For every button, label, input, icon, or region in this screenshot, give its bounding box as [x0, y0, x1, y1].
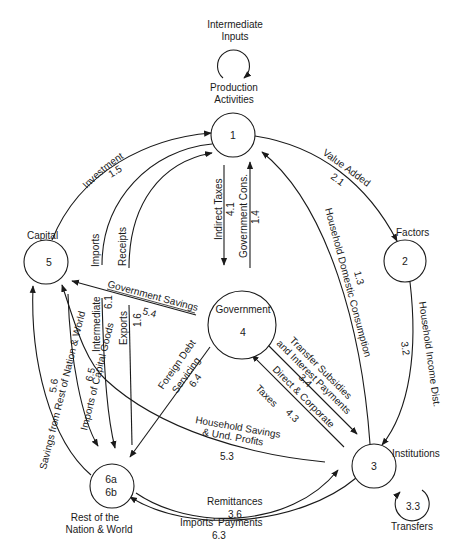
flow-foreign-debt: Foreign Debt Servicing 6.4	[130, 337, 210, 457]
node-government-number: 4	[240, 326, 246, 338]
flow-exports-code: 1.6	[132, 313, 143, 327]
node-row-label-2: Nation & World	[65, 524, 132, 535]
node-production-label-1: Production	[210, 82, 258, 93]
sam-flow-diagram: Investment 1.5 Value Added 2.1 Household…	[0, 0, 454, 557]
node-production-activities: Production Activities 1	[210, 82, 258, 157]
flow-imports-payments-code: 6.3	[212, 530, 226, 541]
flow-household-savings-code: 5.3	[220, 451, 234, 462]
flow-government-consumption-label: Government Cons.	[238, 174, 249, 258]
flow-savings-row-code: 5.6	[47, 378, 60, 394]
flow-value-added-code: 2.1	[329, 171, 347, 188]
flow-value-added: Value Added 2.1	[255, 136, 397, 241]
flow-savings-row-label: Savings from Rest of Nation & World	[37, 310, 87, 470]
flow-imports-payments-label: Imports' Payments	[180, 517, 263, 528]
flow-household-income-code: 3.2	[399, 341, 412, 357]
node-government: Government 4	[208, 291, 276, 359]
node-row-number-2: 6b	[105, 486, 117, 498]
flow-remittances-label: Remittances	[207, 496, 263, 507]
loop-intermediate-inputs: Intermediate Inputs	[207, 19, 263, 78]
node-production-number: 1	[230, 129, 236, 141]
node-capital: Capital 5	[24, 230, 68, 284]
flow-imports-payments: Imports' Payments 6.3	[130, 478, 356, 541]
flow-indirect-taxes-label: Indirect Taxes	[213, 178, 224, 240]
node-factors-number: 2	[402, 255, 408, 267]
node-row-label-1: Rest of the	[71, 512, 120, 523]
flow-receipts-label: Receipts	[117, 227, 128, 266]
flow-receipts: Receipts	[117, 153, 212, 268]
flow-government-consumption: Government Cons. 1.4	[238, 162, 261, 268]
loop-transfers: 3.3 Transfers	[391, 490, 433, 532]
flow-government-consumption-code: 1.4	[250, 210, 261, 224]
node-production-label-2: Activities	[214, 94, 253, 105]
node-capital-number: 5	[46, 256, 52, 268]
flow-value-added-label: Value Added	[321, 147, 373, 189]
flow-exports: Exports 1.6	[118, 305, 143, 445]
flow-imports-label: Imports	[90, 234, 101, 267]
flow-direct-taxes-label-2: Taxes	[254, 383, 280, 409]
node-institutions-label: Institutions	[392, 448, 440, 459]
node-row-number-1: 6a	[105, 473, 117, 485]
node-institutions: 3 Institutions	[352, 444, 440, 488]
flow-intermediate-code: 6.1	[103, 295, 114, 309]
node-rest-of-world: 6a 6b Rest of the Nation & World	[65, 464, 134, 535]
node-institutions-number: 3	[371, 460, 377, 472]
flow-exports-label: Exports	[118, 311, 129, 345]
loop-transfers-code: 3.3	[406, 501, 420, 512]
flow-indirect-taxes: Indirect Taxes 4.1	[213, 165, 236, 265]
loop-intermediate-inputs-label-2: Inputs	[221, 31, 248, 42]
node-government-label: Government	[215, 304, 270, 315]
loop-intermediate-inputs-label-1: Intermediate	[207, 19, 263, 30]
node-capital-label: Capital	[27, 230, 58, 241]
loop-transfers-label: Transfers	[391, 521, 433, 532]
node-factors: Factors 2	[384, 227, 429, 282]
flow-household-income: Household Income Dist. 3.2	[382, 282, 443, 445]
flow-indirect-taxes-code: 4.1	[225, 202, 236, 216]
node-factors-label: Factors	[396, 227, 429, 238]
flow-direct-taxes-code: 4.3	[284, 407, 302, 425]
flow-government-savings-code: 5.4	[141, 305, 158, 319]
flow-transfer-subsidies: Transfer Subsidies and Interest Payments…	[265, 335, 357, 434]
flow-household-income-label: Household Income Dist.	[417, 301, 443, 408]
